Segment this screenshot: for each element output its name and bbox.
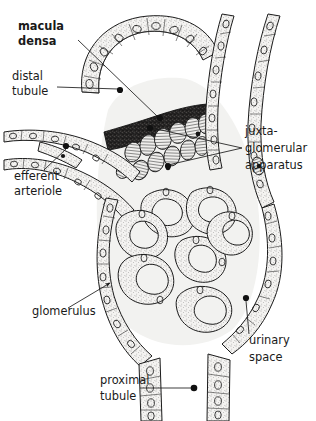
label-distal-tubule: distal tubule (12, 69, 48, 98)
label-efferent-arteriole-line2: arteriole (14, 184, 62, 198)
label-distal-tubule-line2: tubule (12, 84, 48, 98)
proximal-tubule-wall (139, 354, 230, 421)
label-juxtaglomerular-apparatus: juxta- glomerular apparatus (244, 124, 308, 172)
label-urinary-space-line2: space (249, 350, 282, 364)
label-proximal-tubule-line1: proximal (100, 373, 149, 387)
label-efferent-arteriole: efferent arteriole (14, 169, 62, 198)
label-macula-densa-line1: macula (18, 19, 64, 33)
label-macula-densa-line2: densa (18, 34, 56, 48)
label-macula-densa: macula densa (18, 19, 64, 48)
renal-corpuscle-diagram: macula densa distal tubule efferent arte… (0, 0, 316, 421)
label-glomerulus-line1: glomerulus (32, 304, 96, 318)
label-urinary-space: urinary space (249, 333, 290, 364)
label-efferent-arteriole-line1: efferent (14, 169, 60, 183)
label-jga-line2: glomerular (245, 141, 308, 155)
label-distal-tubule-line1: distal (12, 69, 43, 83)
label-urinary-space-line1: urinary (249, 333, 290, 347)
label-jga-line3: apparatus (245, 158, 303, 172)
label-jga-line1: juxta- (244, 124, 278, 138)
label-proximal-tubule-line2: tubule (100, 389, 136, 403)
label-glomerulus: glomerulus (32, 304, 96, 318)
